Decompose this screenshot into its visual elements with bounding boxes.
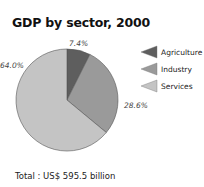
legend-label-industry: Industry [161,65,192,74]
legend-item-industry: Industry [141,63,192,75]
legend-label-services: Services [161,82,193,91]
total-footer: Total : US$ 595.5 billion [15,171,115,181]
legend-item-agriculture: Agriculture [141,46,203,58]
legend-swatch-agriculture [141,46,157,58]
slice-label-industry: 28.6% [124,101,148,110]
legend-swatch-industry [141,63,157,75]
legend-item-services: Services [141,80,193,92]
legend-label-agriculture: Agriculture [161,48,203,57]
legend-swatch-services [141,80,157,92]
slice-label-services: 64.0% [0,61,24,70]
pie-slices [16,49,118,151]
pie-chart: 7.4% 28.6% 64.0% Agriculture Industry Se… [0,0,204,187]
legend: Agriculture Industry Services [141,46,203,92]
slice-label-agriculture: 7.4% [69,39,88,48]
